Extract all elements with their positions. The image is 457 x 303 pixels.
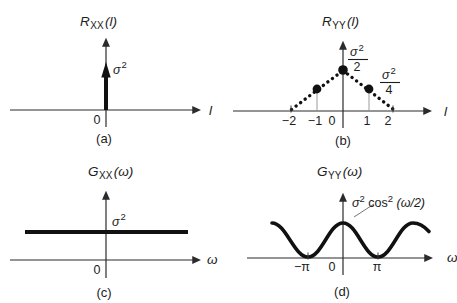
panel-b-title: RYY(l) [322, 14, 359, 31]
panel-b-point-0 [338, 65, 348, 75]
panel-d-curve-equation: σ2 cos2 (ω/2) [352, 193, 425, 210]
panel-d-ticklabel-minus-pi: −π [294, 260, 310, 274]
panel-d-caption: (d) [334, 284, 350, 299]
peak-fraction-numerator: σ2 [350, 42, 364, 59]
panel-b-side-value-fraction: σ2 4 [380, 65, 400, 97]
peak-fraction-denominator: 2 [354, 60, 361, 74]
figure-canvas: RXX(l) l σ2 0 (a) RYY(l) l σ2 2 [0, 0, 457, 303]
panel-d-title: GYY(ω) [317, 164, 362, 181]
panel-c-caption: (c) [96, 285, 111, 300]
four-panel-plot: RXX(l) l σ2 0 (a) RYY(l) l σ2 2 [0, 0, 457, 303]
panel-d: GYY(ω) ω σ2 cos2 (ω/2) −π 0 π (d) [247, 164, 457, 299]
panel-b-ticklabel-plus1: 1 [364, 114, 371, 128]
panel-c-x-axis-label: ω [207, 252, 218, 267]
panel-a-x-axis-label: l [209, 103, 213, 118]
side-fraction-denominator: 4 [386, 83, 393, 97]
panel-b-ticklabel-zero: 0 [329, 114, 336, 128]
panel-b: RYY(l) l σ2 2 σ2 4 −2 −1 0 1 2 (b) [233, 14, 448, 148]
panel-d-ticklabel-plus-pi: π [373, 260, 382, 274]
panel-a-title: RXX(l) [80, 14, 117, 31]
panel-c-title: GXX(ω) [88, 164, 133, 181]
panel-a-caption: (a) [96, 131, 112, 146]
side-fraction-numerator: σ2 [382, 65, 396, 82]
panel-b-point-minus1 [313, 85, 322, 94]
panel-a-impulse-arrowhead-icon [101, 62, 110, 78]
panel-a-impulse-value: σ2 [113, 59, 127, 77]
panel-c-origin-label: 0 [94, 263, 101, 277]
panel-d-x-axis-label: ω [447, 250, 457, 265]
panel-b-point-plus1 [365, 85, 374, 94]
panel-a-origin-label: 0 [94, 113, 101, 127]
panel-b-ticklabel-minus1: −1 [308, 114, 322, 128]
panel-c-level-value: σ2 [112, 211, 126, 229]
panel-b-ticklabel-plus2: 2 [385, 114, 392, 128]
panel-d-cos-squared-curve [272, 223, 429, 257]
panel-a: RXX(l) l σ2 0 (a) [10, 14, 213, 146]
panel-c: GXX(ω) ω σ2 0 (c) [10, 164, 218, 300]
panel-b-caption: (b) [335, 133, 351, 148]
panel-b-x-axis-label: l [444, 104, 448, 119]
panel-b-ticklabel-minus2: −2 [282, 114, 296, 128]
panel-b-peak-value-fraction: σ2 2 [348, 42, 368, 74]
panel-d-ticklabel-zero: 0 [329, 260, 336, 274]
